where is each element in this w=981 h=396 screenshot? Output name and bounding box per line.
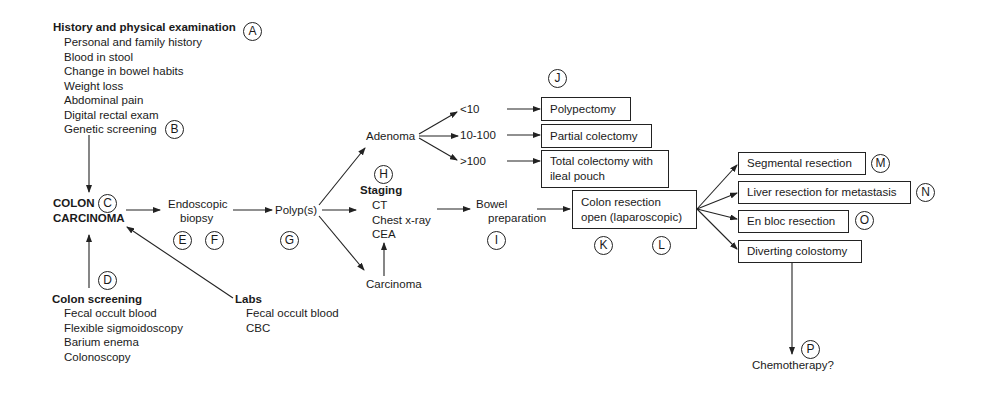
labs-list: Fecal occult blood CBC [246,306,339,335]
endoscopic-line2: biopsy [180,211,213,226]
screening-title: Colon screening [52,292,142,307]
label-i: I [487,231,506,250]
endoscopic-line1: Endoscopic [168,197,227,212]
label-m: M [871,154,890,173]
label-c: C [98,194,117,213]
labs-item: Fecal occult blood [246,306,339,321]
history-item: Personal and family history [64,35,202,50]
liver-resection-box: Liver resection for metastasis [738,181,911,204]
total-colectomy-line2: ileal pouch [550,169,660,184]
partial-colectomy-box: Partial colectomy [541,124,652,148]
screening-item: Colonoscopy [64,350,183,365]
bowel-line2: preparation [488,211,546,226]
history-item: Blood in stool [64,50,202,65]
colon-resection-line1: Colon resection [581,195,688,210]
label-o: O [855,211,874,230]
branch-lt10: <10 [460,102,480,117]
label-d: D [98,271,117,290]
staging-title: Staging [360,183,402,198]
history-item: Weight loss [64,79,202,94]
label-f: F [205,231,224,250]
chemotherapy-text: Chemotherapy? [752,358,834,373]
staging-item: CT [372,198,431,213]
colon-resection-box: Colon resection open (laparoscopic) [572,190,697,229]
label-p: P [801,340,820,359]
history-item: Change in bowel habits [64,64,202,79]
adenoma-text: Adenoma [366,129,415,144]
branch-10-100: 10-100 [460,128,496,143]
history-list: Personal and family history Blood in sto… [64,35,202,137]
polypectomy-box: Polypectomy [541,97,631,121]
branch-gt100: >100 [460,154,486,169]
label-e: E [173,231,192,250]
total-colectomy-box: Total colectomy with ileal pouch [541,150,669,188]
colon-carcinoma-line2: CARCINOMA [53,211,125,226]
label-h: H [374,165,393,184]
history-item: Abdominal pain [64,93,202,108]
segmental-resection-box: Segmental resection [738,152,866,175]
screening-item: Barium enema [64,335,183,350]
label-j: J [548,69,567,88]
staging-item: CEA [372,227,431,242]
labs-title: Labs [235,292,262,307]
screening-item: Flexible sigmoidoscopy [64,321,183,336]
history-title: History and physical examination [53,20,236,35]
staging-item: Chest x-ray [372,213,431,228]
history-item: Digital rectal exam [64,108,202,123]
colon-carcinoma-line1: COLON [53,196,95,211]
labs-item: CBC [246,321,339,336]
label-g: G [280,231,299,250]
screening-list: Fecal occult blood Flexible sigmoidoscop… [64,306,183,364]
label-k: K [594,236,613,255]
en-bloc-resection-box: En bloc resection [738,210,849,233]
label-l: L [652,236,671,255]
staging-list: CT Chest x-ray CEA [372,198,431,242]
screening-item: Fecal occult blood [64,306,183,321]
diverting-colostomy-box: Diverting colostomy [738,240,862,263]
label-a: A [243,22,262,41]
polyps-text: Polyp(s) [275,203,317,218]
total-colectomy-line1: Total colectomy with [550,154,660,169]
label-b: B [165,120,184,139]
label-n: N [916,183,935,202]
bowel-line1: Bowel [476,197,507,212]
colon-resection-line2: open (laparoscopic) [581,210,688,225]
carcinoma-text: Carcinoma [366,277,422,292]
